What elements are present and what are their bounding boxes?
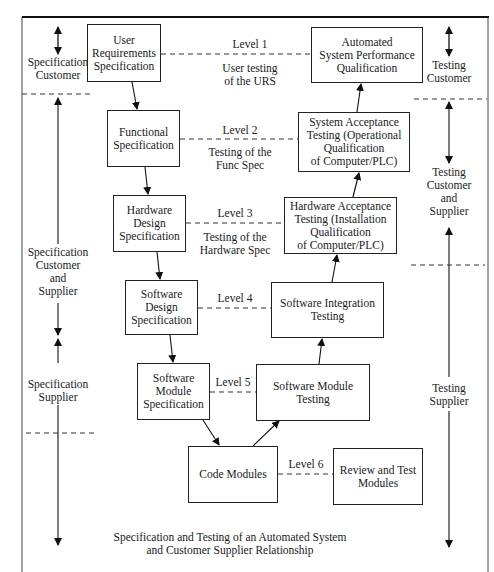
software-module-testing-box: Software Module Testing [256, 364, 370, 421]
box-line: Design [131, 301, 192, 314]
caption-line: Specification and Testing of an Automate… [100, 531, 360, 544]
box-line: System Acceptance [307, 116, 402, 129]
box-line: User [92, 34, 156, 47]
level-1-note: User testing of the URS [200, 62, 300, 88]
diagram-caption: Specification and Testing of an Automate… [100, 531, 360, 557]
user-requirements-specification-box: User Requirements Specification [87, 24, 161, 82]
level-3-label: Level 3 [195, 207, 275, 220]
label-line: Supplier [24, 391, 92, 404]
box-line: Review and Test [340, 464, 416, 477]
software-design-specification-box: Software Design Specification [125, 280, 198, 335]
level-3-note: Testing of the Hardware Spec [185, 231, 285, 257]
code-modules-box: Code Modules [188, 446, 278, 503]
label-line: Specification [24, 56, 92, 69]
level-2-note: Testing of the Func Spec [190, 146, 290, 172]
box-line: Specification [143, 398, 204, 411]
label-line: Testing [418, 166, 480, 179]
box-line: Qualification [307, 142, 402, 155]
box-line: Design [119, 217, 180, 230]
box-line: Testing (Operational [307, 129, 402, 142]
box-line: Software Integration [280, 297, 375, 310]
box-line: Module [143, 385, 204, 398]
box-line: Hardware [119, 204, 180, 217]
level-6-label: Level 6 [280, 458, 332, 471]
level-4-label: Level 4 [202, 292, 268, 305]
spec-customer-label: Specification Customer [24, 56, 92, 82]
label-line: Supplier [418, 395, 480, 408]
hardware-design-specification-box: Hardware Design Specification [113, 195, 186, 252]
system-acceptance-testing-box: System Acceptance Testing (Operational Q… [298, 112, 410, 172]
box-line: Testing (Installation [290, 213, 391, 226]
box-line: Functional [113, 126, 174, 139]
box-line: Software Module [273, 380, 353, 393]
note-line: Testing of the [185, 231, 285, 244]
box-line: Modules [340, 477, 416, 490]
caption-line: and Customer Supplier Relationship [100, 544, 360, 557]
box-line: Software [143, 372, 204, 385]
label-line: Customer [418, 72, 480, 85]
spec-supplier-label: Specification Supplier [24, 378, 92, 404]
functional-specification-box: Functional Specification [107, 110, 180, 167]
label-line: Testing [418, 59, 480, 72]
software-module-specification-box: Software Module Specification [137, 363, 210, 420]
box-line: Qualification [290, 226, 391, 239]
label-line: and [24, 272, 92, 285]
box-line: Automated [319, 36, 415, 49]
box-line: of Computer/PLC) [307, 155, 402, 168]
level-2-label: Level 2 [200, 124, 280, 137]
box-line: Code Modules [199, 468, 266, 481]
software-integration-testing-box: Software Integration Testing [271, 282, 384, 338]
hardware-acceptance-testing-box: Hardware Acceptance Testing (Installatio… [284, 197, 397, 254]
note-line: Hardware Spec [185, 244, 285, 257]
box-line: Software [131, 288, 192, 301]
box-line: of Computer/PLC) [290, 239, 391, 252]
label-line: Customer [418, 179, 480, 192]
note-line: User testing [200, 62, 300, 75]
label-line: Customer [24, 259, 92, 272]
label-line: Supplier [418, 205, 480, 218]
box-line: Testing [280, 310, 375, 323]
testing-supplier-label: Testing Supplier [418, 382, 480, 408]
box-line: Qualification [319, 62, 415, 75]
label-line: Customer [24, 69, 92, 82]
testing-customer-label: Testing Customer [418, 59, 480, 85]
note-line: Testing of the [190, 146, 290, 159]
review-and-test-modules-box: Review and Test Modules [333, 448, 423, 505]
spec-customer-supplier-label: Specification Customer and Supplier [24, 246, 92, 298]
box-line: System Performance [319, 49, 415, 62]
note-line: of the URS [200, 75, 300, 88]
box-line: Specification [119, 230, 180, 243]
box-line: Testing [273, 393, 353, 406]
box-line: Specification [92, 60, 156, 73]
level-1-label: Level 1 [210, 38, 290, 51]
label-line: Specification [24, 378, 92, 391]
box-line: Hardware Acceptance [290, 200, 391, 213]
label-line: and [418, 192, 480, 205]
automated-system-performance-qualification-box: Automated System Performance Qualificati… [311, 27, 423, 83]
level-5-label: Level 5 [208, 376, 258, 389]
label-line: Supplier [24, 285, 92, 298]
label-line: Testing [418, 382, 480, 395]
box-line: Specification [131, 314, 192, 327]
box-line: Specification [113, 139, 174, 152]
box-line: Requirements [92, 47, 156, 60]
note-line: Func Spec [190, 159, 290, 172]
testing-customer-supplier-label: Testing Customer and Supplier [418, 166, 480, 218]
label-line: Specification [24, 246, 92, 259]
